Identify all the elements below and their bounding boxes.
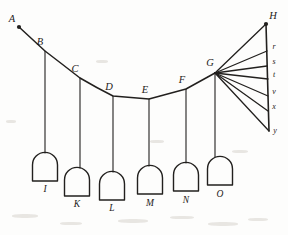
ray-label-v: v <box>272 87 276 96</box>
ray-label-s: s <box>272 57 275 66</box>
weight-m <box>138 165 163 194</box>
weight-label-o: O <box>217 189 224 199</box>
weight-label-i: I <box>42 184 47 194</box>
weight-label-n: N <box>182 195 190 205</box>
scan-artifact <box>60 222 82 225</box>
scan-artifact <box>170 216 194 219</box>
vertex-label-f: F <box>178 74 186 85</box>
scan-artifact <box>118 219 148 223</box>
vertex-label-d: D <box>104 81 113 92</box>
scan-artifact <box>12 214 38 218</box>
vertex-label-b: B <box>37 36 44 47</box>
labels-group: ABCDEFGHrstvxyIKLMNO <box>8 10 278 213</box>
load-line-group <box>266 24 269 131</box>
chain-curve <box>19 27 215 99</box>
ray-label-h: H <box>268 10 278 21</box>
weight-i <box>33 152 58 181</box>
ray-dot-h <box>264 22 268 26</box>
scan-artifact <box>232 150 248 153</box>
force-ray-group <box>215 24 269 131</box>
scan-artifact <box>6 120 16 123</box>
ray-label-r: r <box>272 42 276 51</box>
weight-k <box>65 167 90 196</box>
figure-canvas: ABCDEFGHrstvxyIKLMNO <box>0 0 288 235</box>
vertex-label-g: G <box>206 57 214 68</box>
scan-artifact <box>96 60 108 63</box>
weight-n <box>174 162 199 191</box>
weight-o <box>208 156 233 185</box>
vertex-label-c: C <box>71 63 79 74</box>
weight-l <box>100 171 125 200</box>
vertex-label-a: A <box>8 13 16 24</box>
scan-artifact <box>248 218 268 221</box>
weight-label-k: K <box>73 199 81 209</box>
ray-to-h <box>215 24 266 73</box>
vertex-dot-a <box>17 25 21 29</box>
scan-artifact <box>208 222 238 226</box>
scan-artifact <box>150 140 164 143</box>
ray-label-y: y <box>272 126 277 135</box>
chain-group <box>19 27 215 99</box>
weight-label-m: M <box>145 198 155 208</box>
ray-to-y <box>215 73 269 131</box>
weight-label-l: L <box>108 203 114 213</box>
weights-group <box>33 152 233 200</box>
vertex-label-e: E <box>141 84 149 95</box>
ray-label-t: t <box>273 70 276 79</box>
funicular-diagram: ABCDEFGHrstvxyIKLMNO <box>0 0 288 235</box>
load-line <box>266 24 269 131</box>
ray-label-x: x <box>271 102 276 111</box>
